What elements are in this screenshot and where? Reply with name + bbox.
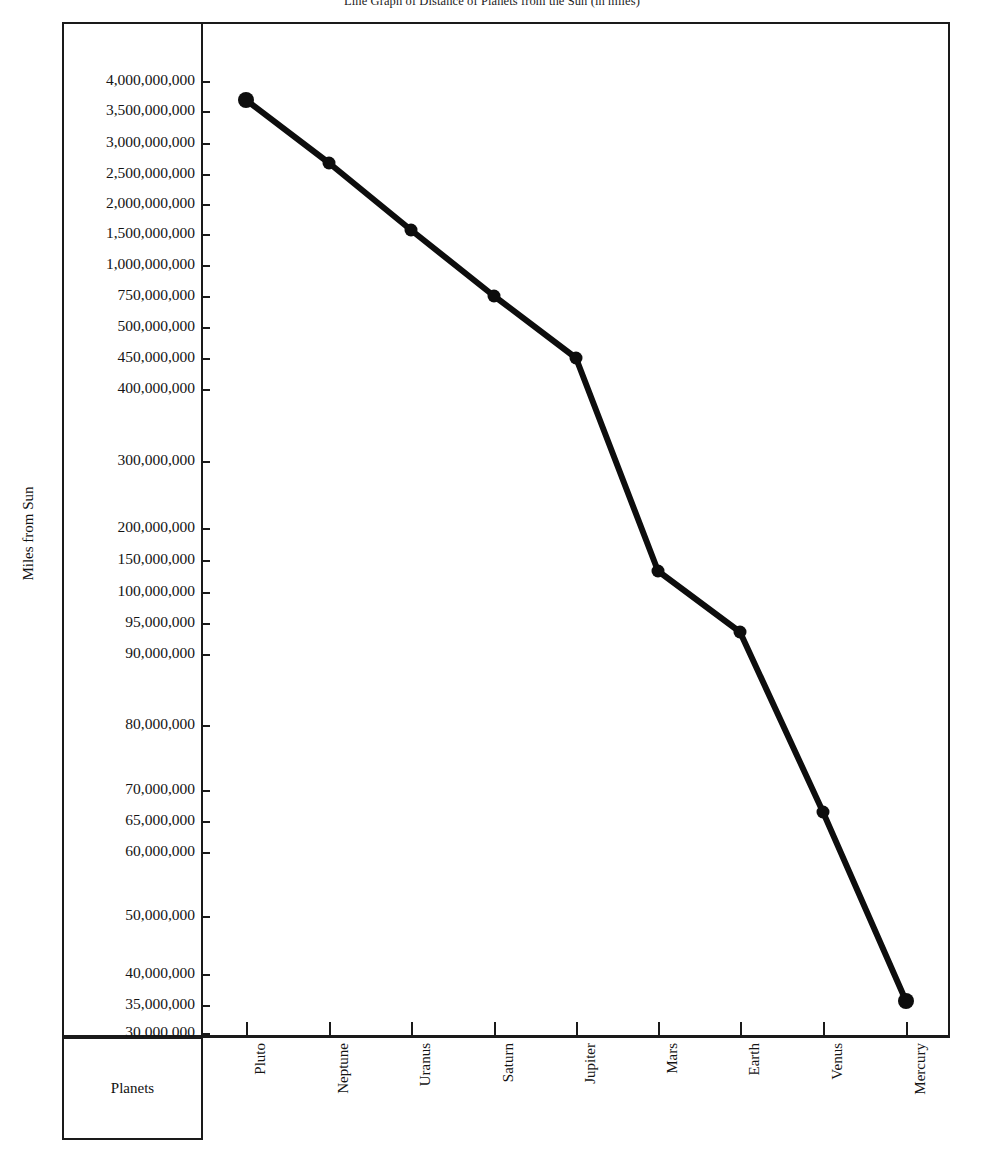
x-tick-label: Mercury [912, 1043, 929, 1163]
x-tick-label: Venus [829, 1043, 846, 1163]
x-tick-label: Neptune [335, 1043, 352, 1163]
x-tick-mark [411, 1022, 413, 1038]
y-tick-label: 4,000,000,000 [55, 72, 195, 87]
y-tick-label: 300,000,000 [55, 452, 195, 467]
y-tick-label: 2,500,000,000 [55, 165, 195, 180]
x-tick-mark [658, 1022, 660, 1038]
x-tick-label: Saturn [500, 1043, 517, 1163]
x-tick-mark [823, 1022, 825, 1038]
y-tick-label: 150,000,000 [55, 551, 195, 566]
plot-area-frame [62, 22, 950, 1037]
y-tick-mark [201, 623, 210, 625]
y-tick-mark [201, 358, 210, 360]
x-tick-mark [494, 1022, 496, 1038]
y-tick-label: 400,000,000 [55, 380, 195, 395]
y-tick-mark [201, 265, 210, 267]
x-tick-mark [906, 1022, 908, 1038]
y-tick-mark [201, 1005, 210, 1007]
y-tick-mark [201, 204, 210, 206]
y-tick-mark [201, 174, 210, 176]
y-tick-mark [201, 821, 210, 823]
x-tick-label: Mars [664, 1043, 681, 1163]
x-tick-label: Jupiter [582, 1043, 599, 1163]
y-tick-label: 1,500,000,000 [55, 225, 195, 240]
y-tick-label: 70,000,000 [55, 781, 195, 796]
x-tick-label: Uranus [417, 1043, 434, 1163]
y-tick-mark [201, 790, 210, 792]
y-tick-mark [201, 81, 210, 83]
y-tick-label: 3,500,000,000 [55, 102, 195, 117]
y-tick-label: 30,000,000 [55, 1024, 195, 1039]
x-axis-title-box: Planets [62, 1037, 203, 1140]
y-tick-mark [201, 296, 210, 298]
x-axis-title: Planets [111, 1080, 154, 1097]
y-tick-label: 80,000,000 [55, 716, 195, 731]
y-tick-label: 40,000,000 [55, 965, 195, 980]
y-tick-label: 3,000,000,000 [55, 134, 195, 149]
chart-page: Line Graph of Distance of Planets from t… [0, 0, 984, 1164]
y-tick-label: 750,000,000 [55, 287, 195, 302]
y-tick-label: 200,000,000 [55, 519, 195, 534]
x-tick-mark [246, 1022, 248, 1038]
y-tick-mark [201, 461, 210, 463]
y-tick-mark [201, 143, 210, 145]
y-tick-mark [201, 974, 210, 976]
y-tick-mark [201, 389, 210, 391]
x-tick-label: Pluto [252, 1043, 269, 1163]
y-tick-mark [201, 560, 210, 562]
y-tick-label: 100,000,000 [55, 583, 195, 598]
y-tick-label: 50,000,000 [55, 907, 195, 922]
x-tick-label: Earth [746, 1043, 763, 1163]
y-tick-mark [201, 111, 210, 113]
y-tick-label: 90,000,000 [55, 645, 195, 660]
x-tick-mark [329, 1022, 331, 1038]
x-tick-mark [740, 1022, 742, 1038]
y-tick-mark [201, 725, 210, 727]
y-tick-label: 450,000,000 [55, 349, 195, 364]
y-axis-title: Miles from Sun [20, 459, 37, 609]
y-tick-label: 95,000,000 [55, 614, 195, 629]
y-tick-label: 60,000,000 [55, 843, 195, 858]
y-tick-mark [201, 592, 210, 594]
y-tick-label: 65,000,000 [55, 812, 195, 827]
chart-title: Line Graph of Distance of Planets from t… [0, 0, 984, 9]
y-tick-mark [201, 234, 210, 236]
y-tick-mark [201, 327, 210, 329]
y-tick-label: 500,000,000 [55, 318, 195, 333]
y-tick-mark [201, 528, 210, 530]
y-tick-mark [201, 654, 210, 656]
y-tick-mark [201, 852, 210, 854]
y-tick-label: 35,000,000 [55, 996, 195, 1011]
y-tick-label: 2,000,000,000 [55, 195, 195, 210]
y-tick-mark [201, 1033, 210, 1035]
x-tick-mark [576, 1022, 578, 1038]
y-tick-label: 1,000,000,000 [55, 256, 195, 271]
y-tick-mark [201, 916, 210, 918]
